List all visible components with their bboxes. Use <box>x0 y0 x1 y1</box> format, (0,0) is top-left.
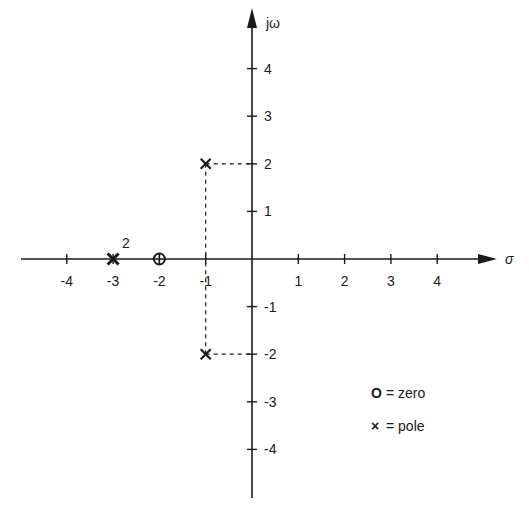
legend-zero-text: = zero <box>386 385 426 401</box>
pole-zero-plot: σ jω -4-3-2-112344321-1-2-3-4 2 O = zero… <box>0 0 529 518</box>
legend-pole-text: = pole <box>386 418 425 434</box>
y-tick-label: 4 <box>264 61 272 77</box>
x-tick-label: -2 <box>153 273 166 289</box>
real-axis-arrow-icon <box>478 254 497 264</box>
legend-zero-symbol: O <box>371 385 382 401</box>
y-tick-label: -3 <box>264 394 277 410</box>
x-tick-label: 4 <box>433 273 441 289</box>
real-axis-label: σ <box>505 251 514 267</box>
y-tick-label: -4 <box>264 441 277 457</box>
x-tick-label: -3 <box>107 273 120 289</box>
imaginary-axis-arrow-icon <box>247 8 257 28</box>
x-tick-label: -4 <box>61 273 74 289</box>
x-tick-label: -1 <box>199 273 212 289</box>
x-tick-label: 1 <box>294 273 302 289</box>
y-tick-label: 1 <box>264 203 272 219</box>
y-tick-label: 3 <box>264 108 272 124</box>
double-pole-annotation: 2 <box>122 235 130 251</box>
legend: O = zero × = pole <box>371 385 426 434</box>
axes: σ jω <box>21 8 514 498</box>
imaginary-axis-label: jω <box>265 15 280 31</box>
legend-pole-symbol: × <box>371 418 379 434</box>
x-tick-label: 3 <box>387 273 395 289</box>
y-tick-label: -2 <box>264 346 277 362</box>
x-tick-label: 2 <box>341 273 349 289</box>
y-tick-label: -1 <box>264 299 277 315</box>
y-tick-label: 2 <box>264 156 272 172</box>
